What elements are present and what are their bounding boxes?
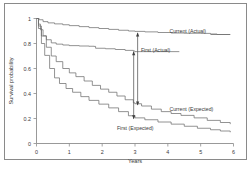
first-gap-arrow-head-top bbox=[132, 51, 135, 55]
y-tick-label: 0.8 bbox=[24, 41, 32, 47]
y-tick-label: 0.2 bbox=[24, 116, 32, 122]
x-axis-title: Years bbox=[128, 158, 142, 164]
x-tick-label: 2 bbox=[101, 149, 104, 155]
series-label: Current (Actual) bbox=[169, 28, 206, 34]
annotations-group bbox=[132, 32, 139, 119]
series-label: Current (Expected) bbox=[169, 106, 213, 112]
y-axis-title: Survival probability bbox=[8, 57, 14, 104]
series-label: First (Actual) bbox=[141, 47, 171, 53]
series-label: First (Expected) bbox=[117, 125, 154, 131]
x-tick-label: 1 bbox=[68, 149, 71, 155]
current-gap-arrow-head-top bbox=[136, 32, 139, 36]
x-tick-label: 0 bbox=[35, 149, 38, 155]
axes-group: 012345600.20.40.60.81YearsSurvival proba… bbox=[8, 16, 235, 164]
figure-container: 012345600.20.40.60.81YearsSurvival proba… bbox=[0, 0, 252, 171]
y-tick-label: 0.6 bbox=[24, 66, 32, 72]
x-tick-label: 3 bbox=[134, 149, 137, 155]
y-tick-label: 0.4 bbox=[24, 91, 32, 97]
survival-curve bbox=[37, 19, 136, 52]
y-tick-label: 0 bbox=[28, 141, 31, 147]
labels-group: Current (Actual)First (Actual)Current (E… bbox=[117, 28, 214, 130]
x-tick-label: 6 bbox=[232, 149, 235, 155]
x-tick-label: 4 bbox=[166, 149, 169, 155]
y-tick-label: 1 bbox=[28, 16, 31, 22]
survival-curve-chart: 012345600.20.40.60.81YearsSurvival proba… bbox=[0, 0, 252, 171]
x-tick-label: 5 bbox=[199, 149, 202, 155]
